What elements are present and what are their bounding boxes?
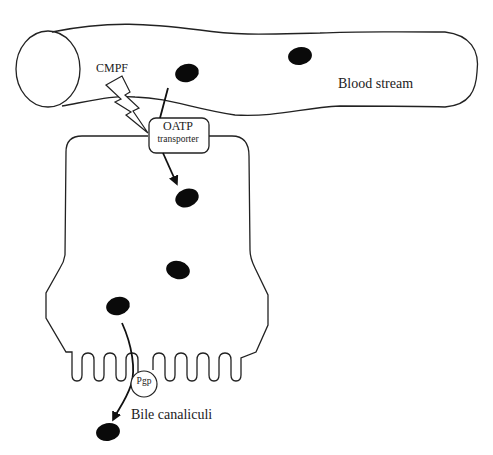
efflux-arrow (114, 323, 133, 418)
molecule-cell-3 (104, 294, 132, 318)
diagram-canvas (0, 0, 493, 455)
bile-canaliculi-label: Bile canaliculi (131, 408, 212, 422)
blood-stream-label: Blood stream (338, 77, 413, 91)
pgp-label: Pgp (132, 377, 156, 387)
vessel-top-edge (52, 24, 445, 34)
cmpf-label: CMPF (96, 62, 128, 74)
oatp-label: OATP (149, 120, 207, 132)
molecule-cell-1 (173, 185, 202, 210)
molecule-blood-1 (173, 61, 201, 85)
hepatocyte-outline (46, 136, 268, 381)
blood-vessel (16, 24, 478, 115)
vessel-opening (16, 31, 80, 107)
vessel-end-cap (445, 32, 478, 107)
molecule-cell-2 (164, 258, 192, 282)
cell-membrane (46, 136, 268, 381)
molecule-bile (95, 421, 122, 443)
molecule-blood-2 (287, 45, 314, 67)
uptake-line (160, 88, 168, 118)
oatp-to-cell-arrow (163, 153, 176, 182)
cmpf-lightning-icon (106, 76, 148, 133)
transporter-label: transporter (149, 135, 207, 145)
